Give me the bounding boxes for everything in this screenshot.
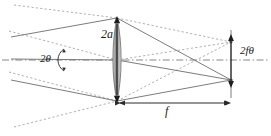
outgoing-dotted-rays xyxy=(117,18,231,101)
outgoing-dotted-ray xyxy=(117,42,231,60)
outgoing-solid-ray xyxy=(117,60,231,80)
incoming-dotted-ray xyxy=(9,72,117,101)
incoming-dotted-ray xyxy=(14,5,117,18)
outgoing-dotted-ray xyxy=(117,18,231,42)
incidence-angle-label: 2θ xyxy=(40,53,51,64)
focal-height-label: 2fθ xyxy=(240,45,254,56)
incoming-dotted-rays xyxy=(9,5,117,127)
optical-ray-diagram: 2a 2θ 2fθ f xyxy=(0,0,271,136)
incoming-dotted-ray xyxy=(14,101,117,127)
focal-length-label: f xyxy=(165,105,168,117)
outgoing-solid-ray xyxy=(117,18,231,80)
outgoing-solid-ray xyxy=(117,80,231,101)
lower-focus-point xyxy=(229,78,232,81)
upper-focus-point xyxy=(230,41,233,44)
focal-length-dimension xyxy=(119,100,231,105)
diagram-canvas xyxy=(0,0,271,136)
incoming-solid-ray xyxy=(11,80,117,101)
outgoing-solid-rays xyxy=(117,18,231,101)
aperture-label: 2a xyxy=(101,28,113,40)
